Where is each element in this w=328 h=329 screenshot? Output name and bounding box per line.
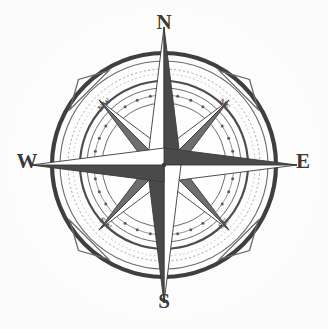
degree-dot	[201, 222, 204, 225]
degree-dot	[227, 190, 230, 193]
degree-dot	[189, 228, 192, 231]
degree-dot	[189, 99, 192, 102]
star-hub	[162, 163, 166, 167]
degree-dot	[136, 228, 139, 231]
degree-dot	[104, 125, 107, 128]
cardinal-label-north: N	[156, 10, 171, 34]
degree-dot	[231, 177, 234, 180]
compass-rose-drawing: NESESWNW NESW	[0, 0, 328, 329]
cardinal-label-west: W	[17, 149, 38, 173]
degree-dot	[221, 202, 224, 205]
degree-dot	[176, 232, 179, 235]
degree-dot	[124, 222, 127, 225]
degree-dot	[136, 99, 139, 102]
degree-dot	[94, 150, 97, 153]
degree-dot	[104, 202, 107, 205]
cardinal-label-east: E	[296, 149, 310, 173]
degree-dot	[149, 95, 152, 98]
degree-dot	[98, 137, 101, 140]
compass-rose-figure: NESESWNW NESW	[0, 0, 328, 329]
degree-dot	[94, 177, 97, 180]
degree-dot	[124, 105, 127, 108]
degree-dot	[201, 105, 204, 108]
degree-dot	[176, 95, 179, 98]
cardinal-label-south: S	[158, 289, 170, 313]
degree-dot	[231, 150, 234, 153]
degree-dot	[98, 190, 101, 193]
degree-dot	[149, 232, 152, 235]
degree-dot	[227, 137, 230, 140]
degree-dot	[221, 125, 224, 128]
